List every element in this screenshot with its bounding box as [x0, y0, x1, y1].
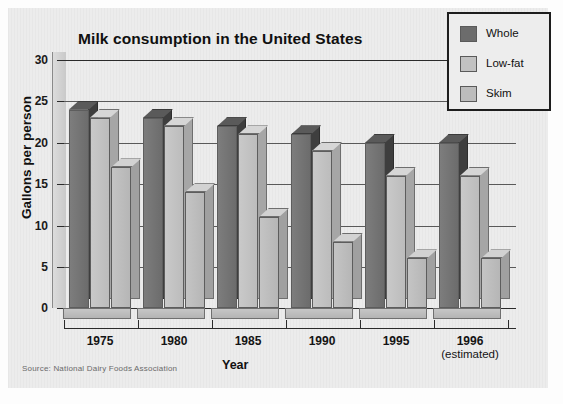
group-base-1975: [63, 308, 131, 319]
legend-swatch-skim-icon: [460, 86, 477, 102]
group-base-1980: [137, 308, 205, 319]
bar-skim-1980[interactable]: [185, 183, 205, 308]
legend-swatch-lowfat-icon: [460, 56, 477, 72]
xtick-5: [434, 320, 435, 329]
bar-lowfat-1995[interactable]: [386, 167, 406, 308]
bar-lowfat-1990[interactable]: [312, 142, 332, 308]
legend-swatch-whole-icon: [460, 26, 477, 42]
xtick-3: [286, 320, 287, 329]
bar-side-face: [278, 208, 288, 299]
xtick-end: [508, 320, 509, 329]
bar-side-face: [130, 158, 140, 299]
xtick-start: [64, 320, 65, 329]
xtick-4: [360, 320, 361, 329]
bar-whole-1990[interactable]: [291, 125, 311, 308]
bar-whole-1995[interactable]: [365, 134, 385, 308]
bar-front-face: [312, 151, 332, 308]
xtick-2: [212, 320, 213, 329]
bar-front-face: [90, 118, 110, 308]
x-axis-line: [64, 328, 516, 329]
bar-skim-1996[interactable]: [481, 249, 501, 308]
ylabel-5: 5: [22, 262, 48, 272]
bar-front-face: [407, 258, 427, 308]
bar-front-face: [69, 110, 89, 308]
bar-front-face: [439, 143, 459, 308]
bar-skim-1990[interactable]: [333, 233, 353, 308]
bar-lowfat-1996[interactable]: [460, 167, 480, 308]
bar-front-face: [291, 134, 311, 308]
bar-front-face: [164, 126, 184, 308]
legend-label-skim: Skim: [486, 87, 512, 99]
bar-front-face: [217, 126, 237, 308]
bar-front-face: [238, 134, 258, 308]
bar-front-face: [259, 217, 279, 308]
ytick-15: [57, 184, 64, 185]
source-note: Source: National Dairy Foods Association: [22, 364, 177, 373]
y-axis-title: Gallons per person: [19, 68, 34, 248]
bar-side-face: [204, 183, 214, 299]
x-axis-sublabel-1996: (estimated): [425, 348, 515, 360]
group-base-1985: [211, 308, 279, 319]
bar-skim-1985[interactable]: [259, 208, 279, 308]
bar-whole-1996[interactable]: [439, 134, 459, 308]
bar-whole-1980[interactable]: [143, 109, 163, 308]
ytick-5: [57, 267, 64, 268]
bar-side-face: [352, 233, 362, 299]
bar-front-face: [111, 167, 131, 308]
x-axis-label-1996: 1996(estimated): [425, 334, 515, 360]
chart-image: 30 25 20 15 10 5 0 Gallons per person Mi…: [0, 0, 563, 404]
bar-front-face: [481, 258, 501, 308]
xtick-1: [138, 320, 139, 329]
legend-item-whole[interactable]: Whole: [460, 26, 550, 44]
bar-lowfat-1980[interactable]: [164, 117, 184, 308]
ytick-20: [57, 143, 64, 144]
bar-skim-1995[interactable]: [407, 249, 427, 308]
ylabel-0: 0: [22, 303, 48, 313]
chart-title: Milk consumption in the United States: [78, 30, 362, 48]
bar-lowfat-1975[interactable]: [90, 109, 110, 308]
bar-front-face: [185, 192, 205, 308]
group-base-1995: [359, 308, 427, 319]
bar-front-face: [365, 143, 385, 308]
x-axis-title: Year: [222, 358, 248, 372]
legend-label-lowfat: Low-fat: [486, 57, 524, 69]
ytick-10: [57, 226, 64, 227]
bar-front-face: [143, 118, 163, 308]
ytick-30: [57, 60, 64, 61]
legend-item-skim[interactable]: Skim: [460, 86, 550, 104]
bar-lowfat-1985[interactable]: [238, 125, 258, 308]
ylabel-30: 30: [22, 55, 48, 65]
legend-label-whole: Whole: [486, 27, 519, 39]
group-base-1990: [285, 308, 353, 319]
bar-front-face: [460, 176, 480, 308]
legend: Whole Low-fat Skim: [447, 12, 551, 111]
group-base-1996: [433, 308, 501, 319]
bar-front-face: [386, 176, 406, 308]
axis-wall: [52, 52, 66, 308]
bar-skim-1975[interactable]: [111, 158, 131, 308]
plot-area: 30 25 20 15 10 5 0 Gallons per person Mi…: [0, 0, 540, 380]
ytick-25: [57, 101, 64, 102]
bar-front-face: [333, 242, 353, 308]
legend-item-lowfat[interactable]: Low-fat: [460, 56, 550, 74]
bar-whole-1985[interactable]: [217, 117, 237, 308]
bar-whole-1975[interactable]: [69, 101, 89, 308]
